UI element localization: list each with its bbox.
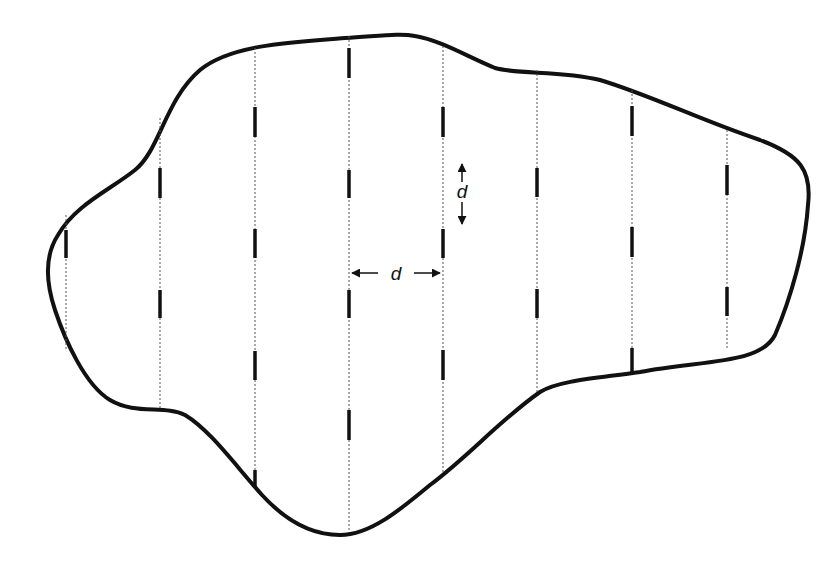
horizontal-spacing-label: d	[391, 263, 403, 284]
transect-sampling-diagram: d d	[0, 0, 833, 566]
vertical-spacing-label: d	[457, 181, 469, 202]
study-area-boundary	[48, 35, 809, 535]
vertical-spacing-annotation: d	[457, 164, 469, 224]
horizontal-spacing-annotation: d	[352, 263, 440, 284]
transect-lines-group	[66, 36, 727, 532]
